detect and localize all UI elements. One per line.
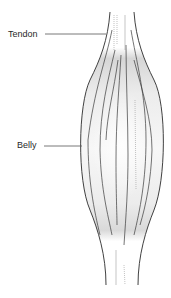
muscle-diagram bbox=[0, 0, 171, 298]
